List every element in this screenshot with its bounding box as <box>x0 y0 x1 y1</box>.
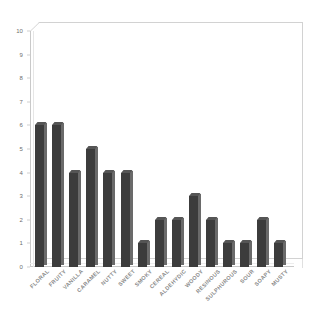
y-axis-tick-2: 2 <box>20 217 23 223</box>
y-axis-tick-5: 5 <box>20 146 23 152</box>
bar-front-face <box>223 243 232 267</box>
bar[interactable] <box>33 31 49 267</box>
bar[interactable] <box>153 31 169 267</box>
x-axis-label-sweet: SWEET <box>116 268 135 287</box>
bar-series <box>30 31 294 267</box>
bar[interactable] <box>119 31 135 267</box>
bar[interactable] <box>255 31 271 267</box>
bar-front-face <box>257 220 266 267</box>
bar-side-face <box>61 123 64 265</box>
bar-side-face <box>181 218 184 265</box>
bar-side-face <box>78 171 81 265</box>
bar-side-face <box>112 171 115 265</box>
bar-top-face <box>121 170 133 173</box>
bar-side-face <box>95 147 98 265</box>
y-axis-tick-0: 0 <box>20 264 23 270</box>
bar-front-face <box>69 173 78 267</box>
bar-side-face <box>147 241 150 265</box>
bar[interactable] <box>187 31 203 267</box>
bar-side-face <box>130 171 133 265</box>
bar-front-face <box>240 243 249 267</box>
bar-front-face <box>189 196 198 267</box>
y-axis-tick-10: 10 <box>16 28 23 34</box>
bar[interactable] <box>238 31 254 267</box>
bar[interactable] <box>204 31 220 267</box>
bar-front-face <box>86 149 95 267</box>
bar-top-face <box>155 217 167 220</box>
bar-side-face <box>215 218 218 265</box>
chart-depth-right-edge <box>293 259 303 268</box>
bar-front-face <box>35 125 44 267</box>
bar[interactable] <box>50 31 66 267</box>
x-axis-label-sulphurous: SULPHUROUS <box>204 268 238 302</box>
y-axis-tick-1: 1 <box>20 240 23 246</box>
y-axis-tick-8: 8 <box>20 75 23 81</box>
bar-chart: 012345678910 FLORALFRUITYVANILLACARAMELN… <box>0 0 324 329</box>
bar-side-face <box>283 241 286 265</box>
bar-side-face <box>249 241 252 265</box>
bar-side-face <box>266 218 269 265</box>
x-axis-label-soapy: SOAPY <box>253 268 272 287</box>
x-axis-label-floral: FLORAL <box>29 268 51 290</box>
bar-front-face <box>155 220 164 267</box>
bar-side-face <box>232 241 235 265</box>
bar[interactable] <box>170 31 186 267</box>
bar-side-face <box>44 123 47 265</box>
bar-front-face <box>206 220 215 267</box>
bar-side-face <box>198 194 201 265</box>
bar[interactable] <box>101 31 117 267</box>
bar-front-face <box>172 220 181 267</box>
x-axis-tick-labels: FLORALFRUITYVANILLACARAMELNUTTYSWEETSMOK… <box>30 268 324 329</box>
bar-front-face <box>121 173 130 267</box>
bar-front-face <box>52 125 61 267</box>
bar[interactable] <box>136 31 152 267</box>
y-axis-tick-6: 6 <box>20 122 23 128</box>
x-axis-label-musty: MUSTY <box>271 268 290 287</box>
y-axis-tick-labels: 012345678910 <box>0 0 30 329</box>
bar-side-face <box>164 218 167 265</box>
y-axis-tick-7: 7 <box>20 99 23 105</box>
y-axis-tick-4: 4 <box>20 170 23 176</box>
bar-front-face <box>138 243 147 267</box>
y-axis-tick-9: 9 <box>20 52 23 58</box>
x-axis-label-nutty: NUTTY <box>100 268 118 286</box>
y-axis-tick-3: 3 <box>20 193 23 199</box>
bar[interactable] <box>272 31 288 267</box>
bar[interactable] <box>84 31 100 267</box>
bar[interactable] <box>221 31 237 267</box>
bar-front-face <box>103 173 112 267</box>
bar[interactable] <box>67 31 83 267</box>
bar-front-face <box>274 243 283 267</box>
